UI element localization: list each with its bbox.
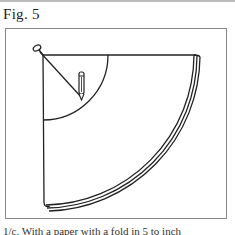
- pencil-icon: [79, 72, 84, 100]
- inner-arc: [43, 55, 108, 120]
- figure-caption: 1/c. With a paper with a fold in 5 to in…: [3, 225, 181, 235]
- outer-arc-3: [49, 57, 200, 211]
- pin-icon: [32, 44, 43, 55]
- figure-drawing: [0, 0, 235, 235]
- outer-arc-2: [47, 56, 197, 208]
- outer-arc-1: [46, 55, 194, 205]
- string: [40, 52, 82, 98]
- sheet-left-edge: [43, 55, 50, 207]
